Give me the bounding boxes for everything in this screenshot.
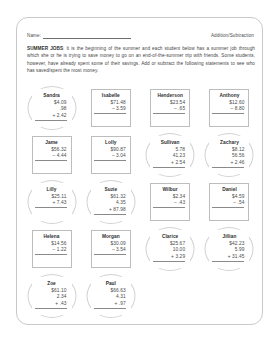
worksheet-header: Name: Addition/Subtraction bbox=[27, 28, 254, 39]
instructions-paragraph: SUMMER JOBS: It is the beginning of the … bbox=[27, 45, 255, 74]
student-name: Anthony bbox=[214, 93, 244, 100]
problem-cell[interactable]: Helena$14.56– 1.22 bbox=[26, 227, 77, 270]
problem-box[interactable]: Jillian$42.235.99+ 31.45 bbox=[209, 230, 249, 268]
operand-value: – 1.22 bbox=[35, 247, 67, 255]
operand-value: – .43 bbox=[153, 200, 185, 208]
problem-row: Zoe$61.102.34+ .43Paul$66.634.31+ .97 bbox=[26, 274, 255, 317]
operand-value: + .43 bbox=[35, 301, 67, 309]
student-name: Jame bbox=[37, 140, 67, 147]
instructions-title: SUMMER JOBS bbox=[27, 46, 63, 51]
problem-row: Lilly$25.11+ 7.43Suzie$61.324.35+ 87.98W… bbox=[26, 180, 255, 223]
operand-value: + 7.43 bbox=[35, 200, 67, 208]
problem-box[interactable]: Morgan$30.09– 3.54 bbox=[91, 230, 131, 268]
problem-cell[interactable]: Morgan$30.09– 3.54 bbox=[85, 227, 136, 270]
problem-box[interactable]: Lolly$90.87– 3.04 bbox=[91, 136, 131, 174]
operand-value: + 2.54 bbox=[153, 160, 185, 168]
problem-cell[interactable]: Sullivan5.7841.23+ 2.54 bbox=[145, 133, 196, 176]
name-label: Name: bbox=[27, 33, 41, 39]
problem-cell[interactable]: Daniel$4.59– .54 bbox=[204, 180, 255, 223]
worksheet-page: Name: Addition/Subtraction SUMMER JOBS: … bbox=[16, 17, 263, 325]
student-name: Henderson bbox=[155, 93, 185, 100]
name-field-group: Name: bbox=[27, 33, 131, 39]
problem-box[interactable]: Lilly$25.11+ 7.43 bbox=[32, 183, 72, 221]
student-name: Helena bbox=[37, 234, 67, 241]
student-name: Jillian bbox=[214, 234, 244, 241]
problem-row: Helena$14.56– 1.22Morgan$30.09– 3.54Clar… bbox=[26, 227, 255, 270]
problem-cell[interactable]: Anthony$12.60– 8.80 bbox=[204, 86, 255, 129]
operand-value: – 3.59 bbox=[94, 106, 126, 114]
subject-label: Addition/Subtraction bbox=[211, 33, 254, 39]
student-name: Lolly bbox=[96, 140, 126, 147]
operand-value: + 31.45 bbox=[212, 254, 244, 262]
student-name: Lilly bbox=[37, 187, 67, 194]
operand-value: – 4.44 bbox=[35, 153, 67, 161]
operand-value: + 2.46 bbox=[212, 160, 244, 168]
problem-cell[interactable]: Lolly$90.87– 3.04 bbox=[85, 133, 136, 176]
problem-box[interactable]: Zoe$61.102.34+ .43 bbox=[32, 277, 72, 315]
problem-cell[interactable]: Zoe$61.102.34+ .43 bbox=[26, 274, 77, 317]
problem-box[interactable]: Daniel$4.59– .54 bbox=[209, 183, 249, 221]
problem-box[interactable]: Isabelle$71.48– 3.59 bbox=[91, 89, 131, 127]
problem-cell[interactable]: Jillian$42.235.99+ 31.45 bbox=[204, 227, 255, 270]
problem-cell[interactable]: Sandra$4.09.98+ 2.42 bbox=[26, 86, 77, 129]
problem-cell[interactable]: Clarice$25.6710.00+ 3.29 bbox=[145, 227, 196, 270]
empty-cell bbox=[204, 274, 255, 317]
problem-box[interactable]: Helena$14.56– 1.22 bbox=[32, 230, 72, 268]
problem-box[interactable]: Sandra$4.09.98+ 2.42 bbox=[32, 89, 72, 127]
operand-value: – 8.80 bbox=[212, 106, 244, 114]
problem-cell[interactable]: Isabelle$71.48– 3.59 bbox=[85, 86, 136, 129]
problem-box[interactable]: Sullivan5.7841.23+ 2.54 bbox=[150, 136, 190, 174]
problem-cell[interactable]: Wilbur$2.34– .43 bbox=[145, 180, 196, 223]
problem-row: Sandra$4.09.98+ 2.42Isabelle$71.48– 3.59… bbox=[26, 86, 255, 129]
name-input-line[interactable] bbox=[43, 33, 131, 39]
student-name: Zoe bbox=[37, 281, 67, 288]
student-name: Isabelle bbox=[96, 93, 126, 100]
student-name: Clarice bbox=[155, 234, 185, 241]
student-name: Paul bbox=[96, 281, 126, 288]
operand-value: – 3.54 bbox=[94, 247, 126, 255]
problem-cell[interactable]: Henderson$23.54– .65 bbox=[145, 86, 196, 129]
problem-cell[interactable]: Jame$56.32– 4.44 bbox=[26, 133, 77, 176]
student-name: Zachary bbox=[214, 140, 244, 147]
problem-box[interactable]: Suzie$61.324.35+ 87.98 bbox=[91, 183, 131, 221]
problem-box[interactable]: Henderson$23.54– .65 bbox=[150, 89, 190, 127]
problem-cell[interactable]: Paul$66.634.31+ .97 bbox=[85, 274, 136, 317]
operand-value: + .97 bbox=[94, 301, 126, 309]
student-name: Daniel bbox=[214, 187, 244, 194]
operand-value: – .54 bbox=[212, 200, 244, 208]
problem-box[interactable]: Zachary$8.1256.56+ 2.46 bbox=[209, 136, 249, 174]
problem-grid: Sandra$4.09.98+ 2.42Isabelle$71.48– 3.59… bbox=[26, 86, 255, 317]
operand-value: – 3.04 bbox=[94, 153, 126, 161]
operand-value: + 3.29 bbox=[153, 254, 185, 262]
empty-cell bbox=[145, 274, 196, 317]
problem-box[interactable]: Wilbur$2.34– .43 bbox=[150, 183, 190, 221]
student-name: Wilbur bbox=[155, 187, 185, 194]
student-name: Morgan bbox=[96, 234, 126, 241]
student-name: Sandra bbox=[37, 93, 67, 100]
operand-value: + 2.42 bbox=[35, 113, 67, 121]
operand-value: – .65 bbox=[153, 106, 185, 114]
problem-row: Jame$56.32– 4.44Lolly$90.87– 3.04Sulliva… bbox=[26, 133, 255, 176]
student-name: Sullivan bbox=[155, 140, 185, 147]
student-name: Suzie bbox=[96, 187, 126, 194]
problem-box[interactable]: Clarice$25.6710.00+ 3.29 bbox=[150, 230, 190, 268]
problem-box[interactable]: Paul$66.634.31+ .97 bbox=[91, 277, 131, 315]
problem-cell[interactable]: Suzie$61.324.35+ 87.98 bbox=[85, 180, 136, 223]
problem-box[interactable]: Anthony$12.60– 8.80 bbox=[209, 89, 249, 127]
operand-value: + 87.98 bbox=[94, 207, 126, 215]
problem-cell[interactable]: Lilly$25.11+ 7.43 bbox=[26, 180, 77, 223]
problem-box[interactable]: Jame$56.32– 4.44 bbox=[32, 136, 72, 174]
problem-cell[interactable]: Zachary$8.1256.56+ 2.46 bbox=[204, 133, 255, 176]
